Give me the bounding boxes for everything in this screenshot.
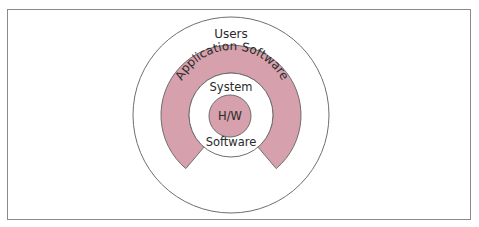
layered-os-diagram: Users Application Software System H/W So… (0, 0, 479, 227)
hw-label: H/W (218, 109, 242, 123)
system-label: System (210, 80, 253, 94)
users-label: Users (214, 27, 248, 41)
software-label: Software (206, 135, 257, 149)
